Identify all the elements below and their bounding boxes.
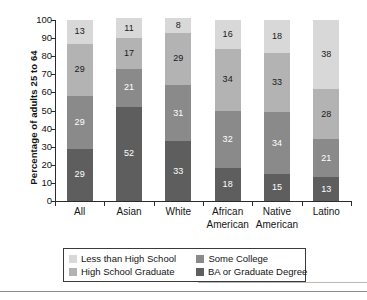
legend-label: High School Graduate (81, 267, 174, 277)
bar-segment[interactable]: 21 (116, 69, 142, 107)
bar-segment-value: 21 (321, 154, 331, 163)
y-tick-label: 90 (22, 33, 52, 43)
page-rule (0, 291, 367, 292)
y-tick-mark (51, 165, 55, 166)
chart-legend: Less than High School Some College High … (63, 248, 306, 282)
y-axis-line (55, 20, 56, 201)
legend-swatch-icon (69, 268, 77, 276)
bar-stack: 13212838 (313, 20, 339, 201)
bar-segment[interactable]: 38 (313, 20, 339, 89)
y-tick-mark (51, 20, 55, 21)
bar-group[interactable]: 3331298 (165, 20, 191, 201)
bar-segment[interactable]: 21 (313, 139, 339, 177)
x-axis-label-line1: All (74, 206, 85, 217)
bar-segment-value: 13 (321, 185, 331, 194)
legend-item-some-college: Some College (196, 252, 301, 265)
bar-segment[interactable]: 18 (215, 168, 241, 201)
legend-row: High School Graduate BA or Graduate Degr… (69, 265, 301, 278)
y-tick-mark (51, 38, 55, 39)
bar-segment-value: 52 (124, 149, 134, 158)
bar-segment-value: 15 (272, 183, 282, 192)
bar-segment[interactable]: 33 (165, 141, 191, 201)
x-axis-label: NativeAmerican (252, 206, 301, 231)
x-axis-label: White (154, 206, 203, 219)
y-tick-mark (51, 74, 55, 75)
bar-segment-value: 34 (223, 75, 233, 84)
bar-segment[interactable]: 16 (215, 20, 241, 49)
bar-segment-value: 38 (321, 50, 331, 59)
legend-row: Less than High School Some College (69, 252, 301, 265)
x-axis-label-line1: White (166, 206, 192, 217)
y-tick-label: 20 (22, 160, 52, 170)
stacked-bar-chart-figure: Percentage of adults 25 to 64 0102030405… (0, 0, 367, 300)
y-tick-label: 0 (22, 196, 52, 206)
bar-group[interactable]: 18323416 (215, 20, 241, 201)
bar-segment-value: 28 (321, 110, 331, 119)
bar-segment[interactable]: 32 (215, 111, 241, 169)
bar-segment[interactable]: 52 (116, 107, 142, 201)
legend-swatch-icon (69, 255, 77, 263)
bar-segment-value: 34 (272, 139, 282, 148)
bar-segment-value: 18 (272, 32, 282, 41)
bar-stack: 15343318 (264, 20, 290, 201)
y-tick-label: 30 (22, 142, 52, 152)
legend-label: BA or Graduate Degree (208, 267, 307, 277)
bar-segment-value: 8 (176, 21, 181, 30)
bar-segment[interactable]: 29 (67, 149, 93, 201)
legend-label: Less than High School (81, 254, 176, 264)
bar-segment[interactable]: 11 (116, 18, 142, 38)
y-tick-mark (51, 111, 55, 112)
bar-segment[interactable]: 13 (313, 177, 339, 201)
bar-segment-value: 29 (75, 170, 85, 179)
bar-segment-value: 18 (223, 180, 233, 189)
bar-segment[interactable]: 34 (215, 49, 241, 111)
page-rule-secondary (198, 282, 367, 283)
x-axis-label-line1: African (212, 206, 243, 217)
x-axis-label: All (55, 206, 104, 219)
x-axis-label-line1: Latino (313, 206, 340, 217)
y-tick-mark (51, 129, 55, 130)
bar-segment[interactable]: 29 (165, 33, 191, 85)
y-axis-tick-labels: 0102030405060708090100 (22, 20, 52, 201)
bar-segment-value: 21 (124, 83, 134, 92)
y-tick-label: 60 (22, 88, 52, 98)
bar-stack: 3331298 (165, 20, 191, 201)
bar-group[interactable]: 52211711 (116, 20, 142, 201)
x-axis-label-line2: American (252, 219, 301, 232)
bar-segment[interactable]: 29 (67, 96, 93, 148)
bar-segment-value: 11 (124, 24, 134, 33)
y-tick-label: 50 (22, 106, 52, 116)
y-tick-label: 10 (22, 178, 52, 188)
bar-segment[interactable]: 15 (264, 174, 290, 201)
y-tick-mark (51, 92, 55, 93)
bar-segment[interactable]: 29 (67, 44, 93, 96)
bar-stack: 52211711 (116, 20, 142, 201)
bar-segment-value: 13 (75, 27, 85, 36)
bar-segment[interactable]: 18 (264, 20, 290, 53)
bar-segment[interactable]: 31 (165, 85, 191, 141)
bar-group[interactable]: 15343318 (264, 20, 290, 201)
bar-segment[interactable]: 13 (67, 20, 93, 44)
y-tick-mark (51, 147, 55, 148)
bar-segment-value: 33 (173, 167, 183, 176)
legend-item-ba-or-graduate-degree: BA or Graduate Degree (196, 265, 301, 278)
bar-group[interactable]: 13212838 (313, 20, 339, 201)
legend-swatch-icon (196, 268, 204, 276)
x-axis-label: Asian (104, 206, 153, 219)
bar-segment[interactable]: 34 (264, 112, 290, 174)
bar-segment-value: 33 (272, 78, 282, 87)
y-tick-label: 40 (22, 124, 52, 134)
x-axis-label: Latino (302, 206, 351, 219)
bar-segment[interactable]: 8 (165, 18, 191, 32)
bar-segment-value: 29 (75, 65, 85, 74)
y-tick-label: 80 (22, 51, 52, 61)
y-tick-mark (51, 183, 55, 184)
x-axis-label: AfricanAmerican (203, 206, 252, 231)
bar-segment-value: 29 (75, 118, 85, 127)
bar-segment[interactable]: 17 (116, 38, 142, 69)
bar-stack: 29292913 (67, 20, 93, 201)
bar-segment[interactable]: 33 (264, 53, 290, 113)
bar-group[interactable]: 29292913 (67, 20, 93, 201)
bar-segment[interactable]: 28 (313, 89, 339, 140)
x-axis-label-line1: Asian (116, 206, 141, 217)
